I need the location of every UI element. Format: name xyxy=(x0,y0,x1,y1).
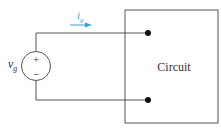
source-label: vg xyxy=(8,57,17,73)
top-wire xyxy=(36,33,148,51)
circuit-label: Circuit xyxy=(157,60,191,74)
source-plus: + xyxy=(33,53,39,65)
current-label: ig xyxy=(77,9,84,24)
bottom-wire xyxy=(36,81,148,100)
top-terminal xyxy=(145,30,151,36)
bottom-terminal xyxy=(145,97,151,103)
current-arrowhead xyxy=(85,23,92,28)
circuit-diagram: + − vg ig Circuit xyxy=(0,0,221,130)
source-minus: − xyxy=(33,68,39,80)
